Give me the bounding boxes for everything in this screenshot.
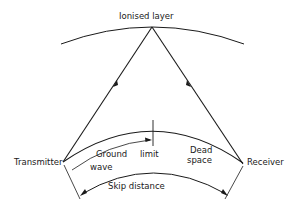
skip-distance-left-arrow-icon <box>80 189 87 196</box>
transmitter-label: Transmitter <box>13 157 63 167</box>
skip-distance-left-tick <box>64 165 80 199</box>
upward-ray-arrow-icon <box>113 80 118 87</box>
skip-distance-right-tick <box>225 166 243 199</box>
dead-space-label-line2: space <box>187 155 212 165</box>
dead-space-label-line1: Dead <box>190 145 212 155</box>
ground-wave-label-line1: Ground <box>96 149 127 159</box>
ionised-layer-label: Ionised layer <box>119 11 174 21</box>
ionised-layer-arc <box>61 27 244 44</box>
ground-wave-arrow-icon <box>145 138 152 143</box>
skip-distance-diagram: Ionised layer limit Ground wave Dead spa… <box>0 0 292 214</box>
downward-ray <box>152 27 243 164</box>
receiver-label: Receiver <box>247 157 284 167</box>
skip-distance-label: Skip distance <box>108 181 165 191</box>
ground-wave-label-line2: wave <box>90 162 112 172</box>
skip-distance-right-arrow-icon <box>221 189 228 196</box>
limit-label: limit <box>140 149 159 159</box>
